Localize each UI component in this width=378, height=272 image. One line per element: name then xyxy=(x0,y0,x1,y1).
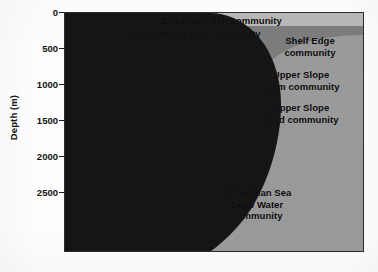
y-tick-label-0: 0 xyxy=(24,8,58,18)
depth-zonation-figure: Depth (m) 0 500 1000 1500 2000 2500 xyxy=(0,0,378,272)
region-label-upper-slope-cold: Upper Slope Cold community xyxy=(243,102,359,125)
y-tick-label-1500: 1500 xyxy=(24,116,58,126)
y-tick-label-2500: 2500 xyxy=(24,188,58,198)
y-tick-label-1000: 1000 xyxy=(24,80,58,90)
y-tick-label-500: 500 xyxy=(24,44,58,54)
y-axis-tick-labels: 0 500 1000 1500 2000 2500 xyxy=(22,0,58,272)
region-label-shelf-edge: Shelf Edge community xyxy=(261,35,359,58)
y-axis-title: Depth (m) xyxy=(8,83,19,153)
y-tick-label-2000: 2000 xyxy=(24,152,58,162)
plot-area: Epipelagic fish community Mesopelagic fi… xyxy=(64,12,364,252)
region-label-upper-slope-warm: Upper Slope Varm community xyxy=(243,69,359,92)
region-label-norwegian-sea-deep-water: Norwegian Sea Deep Water community xyxy=(197,187,317,222)
region-label-epipelagic: Epipelagic fish community xyxy=(121,15,321,27)
